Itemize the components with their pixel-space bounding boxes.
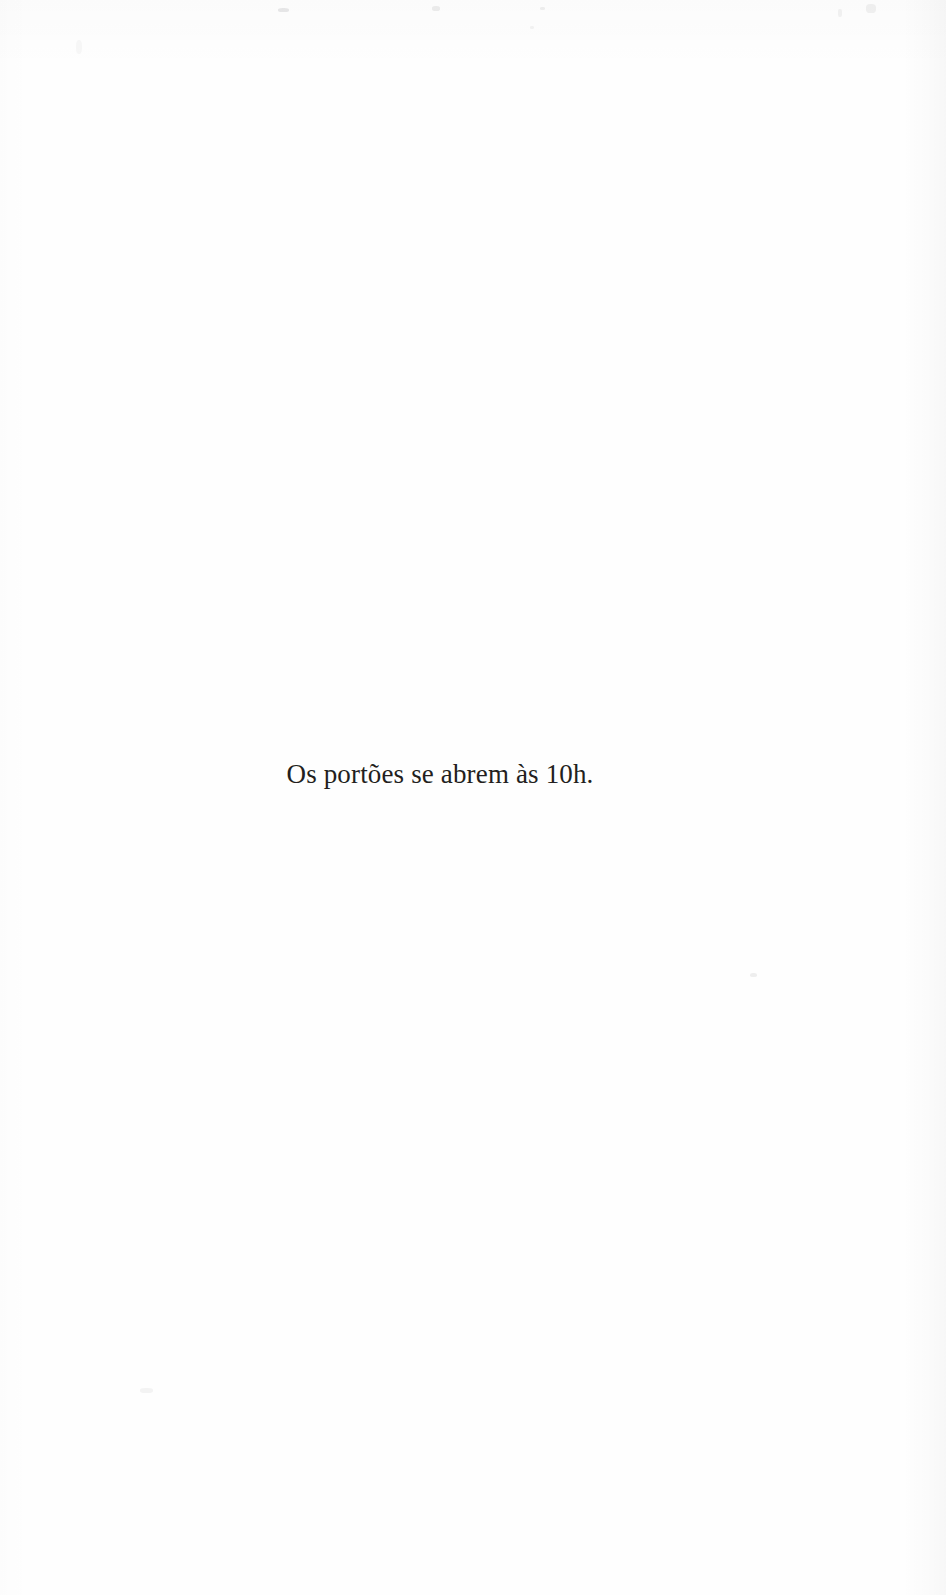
scan-shading-right <box>902 0 946 1595</box>
scan-speck <box>540 7 545 10</box>
scan-speck <box>432 6 440 11</box>
scan-speck <box>278 8 289 12</box>
scan-speck <box>76 40 82 54</box>
scan-speck <box>866 4 876 13</box>
scan-speck <box>838 9 842 17</box>
scan-speck <box>750 973 757 977</box>
page-body-text: Os portões se abrem às 10h. <box>0 757 946 791</box>
scan-speck <box>530 26 534 29</box>
scan-shading-top <box>0 0 946 70</box>
body-text-line: Os portões se abrem às 10h. <box>287 757 594 791</box>
scan-speck <box>140 1388 153 1393</box>
scan-shading-left <box>0 0 30 1595</box>
scanned-page: Os portões se abrem às 10h. <box>0 0 946 1595</box>
